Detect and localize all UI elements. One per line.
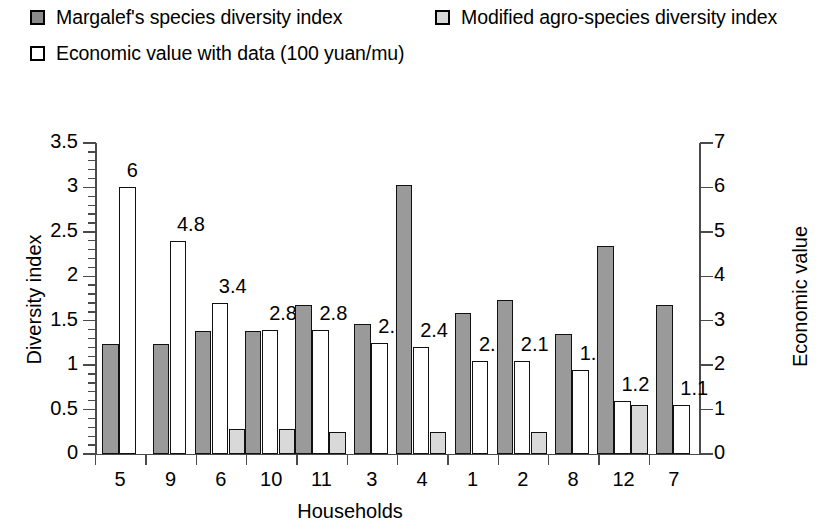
- bar-data-label: 3.4: [219, 275, 247, 298]
- bar-margalef: [597, 246, 614, 454]
- bar-economic-value: [514, 361, 531, 454]
- bar-data-label: 2.8: [320, 302, 348, 325]
- bar-economic-value: [262, 330, 279, 454]
- bar-margalef: [245, 331, 262, 454]
- bar-data-label: 1.2: [622, 373, 650, 396]
- bar-data-label: 4.8: [177, 213, 205, 236]
- bar-margalef: [656, 305, 673, 454]
- bar-economic-value: [673, 405, 690, 454]
- bar-data-label: 6: [127, 159, 138, 182]
- bar-modified-agro: [329, 432, 346, 454]
- bar-economic-value: [212, 303, 229, 454]
- bar-margalef: [455, 313, 472, 454]
- bar-economic-value: [413, 347, 430, 454]
- bar-modified-agro: [229, 429, 246, 454]
- bar-data-label: 2.1: [521, 333, 549, 356]
- bar-margalef: [102, 344, 119, 454]
- bar-margalef: [396, 185, 413, 454]
- bar-economic-value: [472, 361, 489, 454]
- bar-economic-value: [119, 187, 136, 454]
- bar-margalef: [497, 300, 514, 454]
- bar-data-label: 1.1: [680, 377, 708, 400]
- bar-modified-agro: [531, 432, 548, 454]
- bar-modified-agro: [279, 429, 296, 454]
- bar-margalef: [295, 305, 312, 454]
- bar-data-label: 2.8: [269, 302, 297, 325]
- bar-economic-value: [371, 343, 388, 454]
- bar-economic-value: [614, 401, 631, 454]
- plot-area: Diversity index Economic value Household…: [0, 0, 831, 531]
- bar-modified-agro: [631, 405, 648, 454]
- bar-data-label: 2.4: [420, 319, 448, 342]
- bar-margalef: [153, 344, 170, 454]
- bar-modified-agro: [430, 432, 447, 454]
- chart-figure: Margalef's species diversity index Modif…: [0, 0, 831, 531]
- bar-economic-value: [170, 241, 187, 454]
- bar-margalef: [195, 331, 212, 454]
- bar-margalef: [555, 334, 572, 454]
- bar-margalef: [354, 324, 371, 454]
- bar-economic-value: [312, 330, 329, 454]
- bar-economic-value: [572, 370, 589, 454]
- bars-layer: 64.83.42.82.82.52.42.12.11.91.21.1: [0, 0, 831, 531]
